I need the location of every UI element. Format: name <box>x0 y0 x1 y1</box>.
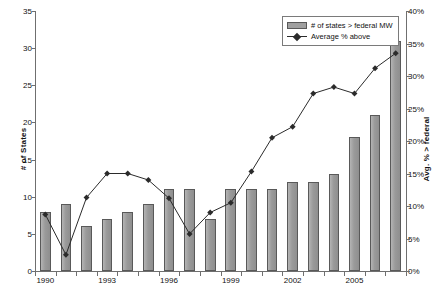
line-marker-average-percent-above <box>310 91 316 97</box>
x-axis-tick-label: 2005 <box>346 276 364 285</box>
x-axis-tick-mark <box>303 272 304 276</box>
x-axis-tick-mark <box>241 272 242 276</box>
line-marker-average-percent-above <box>63 252 69 258</box>
x-axis-tick-label: 1999 <box>222 276 240 285</box>
legend-label-states-above-federal: # of states > federal MW <box>311 21 393 30</box>
x-axis-tick-mark <box>35 272 36 276</box>
line-marker-average-percent-above <box>331 84 337 90</box>
line-marker-average-percent-above <box>269 135 275 141</box>
x-axis-tick-mark <box>262 272 263 276</box>
y-axis-right-tick-label: 30% <box>408 72 424 81</box>
y-axis-right-ticks: 0%5%10%15%20%25%30%35%40% <box>408 0 436 297</box>
y-axis-right-tick-mark <box>406 141 410 142</box>
y-axis-left-tick-mark <box>32 197 36 198</box>
y-axis-right-tick-mark <box>406 44 410 45</box>
line-marker-average-percent-above <box>125 171 131 177</box>
y-axis-left-line <box>35 11 36 272</box>
legend-label-average-percent-above: Average % above <box>311 32 370 41</box>
x-axis-tick-mark <box>221 272 222 276</box>
y-axis-left-tick-mark <box>32 85 36 86</box>
y-axis-right-tick-label: 15% <box>408 169 424 178</box>
y-axis-right-tick-mark <box>406 239 410 240</box>
x-axis-tick-mark <box>324 272 325 276</box>
x-axis-tick-mark <box>282 272 283 276</box>
plot-area <box>35 11 406 271</box>
line-path-average-percent-above <box>45 53 395 255</box>
chart-legend: # of states > federal MW Average % above <box>282 16 399 46</box>
y-axis-right-tick-mark <box>406 76 410 77</box>
bar-swatch-icon <box>287 22 307 29</box>
x-axis-tick-mark <box>365 272 366 276</box>
line-marker-average-percent-above <box>228 200 234 206</box>
legend-item-states-above-federal: # of states > federal MW <box>287 20 393 31</box>
y-axis-right-tick-mark <box>406 206 410 207</box>
x-axis-tick-mark <box>97 272 98 276</box>
x-axis-tick-mark <box>200 272 201 276</box>
y-axis-right-tick-label: 40% <box>408 7 424 16</box>
x-axis-tick-label: 1993 <box>98 276 116 285</box>
y-axis-left-tick-label: 20 <box>23 118 32 127</box>
legend-item-average-percent-above: Average % above <box>287 31 393 42</box>
y-axis-left-tick-label: 25 <box>23 81 32 90</box>
y-axis-left-tick-label: 10 <box>23 192 32 201</box>
x-axis-tick-mark <box>117 272 118 276</box>
line-series-average-percent-above <box>35 11 406 271</box>
y-axis-left-tick-mark <box>32 48 36 49</box>
y-axis-right-tick-label: 25% <box>408 104 424 113</box>
x-axis-tick-label: 1996 <box>160 276 178 285</box>
y-axis-right-tick-label: 10% <box>408 202 424 211</box>
y-axis-left-tick-label: 15 <box>23 155 32 164</box>
y-axis-left-ticks: 05101520253035 <box>12 0 32 297</box>
line-marker-average-percent-above <box>290 124 296 130</box>
line-marker-swatch-icon <box>287 33 307 40</box>
y-axis-left-tick-mark <box>32 11 36 12</box>
y-axis-right-tick-label: 35% <box>408 39 424 48</box>
y-axis-right-tick-mark <box>406 174 410 175</box>
x-axis-tick-mark <box>76 272 77 276</box>
y-axis-left-tick-mark <box>32 234 36 235</box>
x-axis-tick-mark <box>406 272 407 276</box>
x-axis-tick-mark <box>138 272 139 276</box>
y-axis-right-tick-mark <box>406 11 410 12</box>
y-axis-left-tick-mark <box>32 160 36 161</box>
x-axis-tick-mark <box>56 272 57 276</box>
x-axis-tick-mark <box>344 272 345 276</box>
x-axis-tick-label: 2002 <box>284 276 302 285</box>
line-marker-average-percent-above <box>248 169 254 175</box>
y-axis-right-tick-mark <box>406 109 410 110</box>
y-axis-left-tick-label: 30 <box>23 44 32 53</box>
x-axis-tick-mark <box>385 272 386 276</box>
y-axis-right-tick-label: 20% <box>408 137 424 146</box>
line-marker-average-percent-above <box>42 211 48 217</box>
x-axis-tick-mark <box>159 272 160 276</box>
x-axis-tick-mark <box>179 272 180 276</box>
y-axis-left-tick-label: 35 <box>23 7 32 16</box>
y-axis-left-tick-mark <box>32 122 36 123</box>
x-axis-tick-label: 1990 <box>36 276 54 285</box>
chart-container: # of States Avg. % > federal 05101520253… <box>0 0 441 297</box>
x-axis-ticks: 199019931996199920022005 <box>0 274 441 294</box>
